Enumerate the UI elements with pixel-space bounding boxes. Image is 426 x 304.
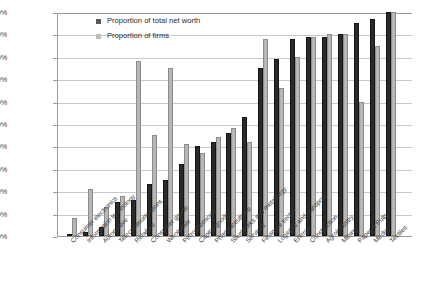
y-tick-label: 30% bbox=[0, 166, 7, 173]
bar-group bbox=[208, 12, 224, 236]
legend-swatch-icon-firms bbox=[96, 34, 101, 39]
bar-group bbox=[367, 12, 383, 236]
y-tick-label: 100% bbox=[0, 9, 7, 16]
legend-entry-net-worth: Proportion of total net worth bbox=[96, 17, 200, 25]
chart-legend: Proportion of total net worth Proportion… bbox=[96, 17, 200, 40]
y-tick-label: 10% bbox=[0, 211, 7, 218]
y-tick-mark bbox=[53, 237, 57, 238]
y-tick-label: 50% bbox=[0, 121, 7, 128]
legend-swatch-icon-net-worth bbox=[96, 19, 101, 24]
bar-firms bbox=[327, 34, 332, 236]
bar-group bbox=[224, 12, 240, 236]
bar-group bbox=[287, 12, 303, 236]
bar-group bbox=[176, 12, 192, 236]
x-axis-labels: Consumer electronicsInformation technolo… bbox=[0, 239, 426, 304]
bar-group bbox=[335, 12, 351, 236]
bar-firms bbox=[136, 61, 141, 236]
bar-firms bbox=[168, 68, 173, 236]
y-tick-label: 40% bbox=[0, 143, 7, 150]
bar-group bbox=[239, 12, 255, 236]
bar-chart: 100%90%80%70%60%50%40%30%20%10%0% Propor… bbox=[0, 0, 426, 304]
bar-group bbox=[351, 12, 367, 236]
bar-firms bbox=[375, 46, 380, 236]
y-tick-label: 20% bbox=[0, 188, 7, 195]
bar-firms bbox=[391, 12, 396, 236]
y-tick-label: 60% bbox=[0, 99, 7, 106]
bar-group bbox=[80, 12, 96, 236]
bar-firms bbox=[343, 34, 348, 236]
legend-entry-firms: Proportion of firms bbox=[96, 32, 200, 40]
y-tick-label: 70% bbox=[0, 76, 7, 83]
bar-group bbox=[64, 12, 80, 236]
legend-label-net-worth: Proportion of total net worth bbox=[107, 17, 200, 25]
bar-group bbox=[192, 12, 208, 236]
legend-label-firms: Proportion of firms bbox=[107, 32, 169, 40]
y-tick-label: 90% bbox=[0, 31, 7, 38]
bar-firms bbox=[295, 57, 300, 236]
bar-group bbox=[383, 12, 399, 236]
y-tick-label: 80% bbox=[0, 54, 7, 61]
bar-firms bbox=[359, 102, 364, 236]
